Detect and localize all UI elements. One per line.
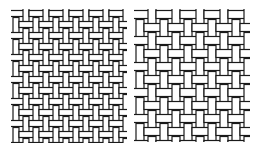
weave-strand: [113, 150, 119, 153]
weave-strand: [252, 11, 265, 19]
weave-strand: [129, 143, 145, 149]
weave-strand: [119, 88, 135, 94]
weave-strand: [256, 124, 264, 145]
weave-strand: [23, 139, 29, 153]
weave-strand: [73, 150, 79, 153]
weave-strand: [244, 137, 252, 153]
weave-strand: [119, 22, 135, 28]
weave-strand: [119, 66, 135, 72]
weave-strand: [240, 24, 260, 32]
weave-strand: [63, 139, 69, 153]
weave-strand: [172, 137, 180, 153]
weave-strand: [123, 139, 129, 153]
weave-strand: [133, 150, 139, 153]
weave-strand: [252, 141, 265, 149]
fine-basket-weave-pattern: [0, 0, 265, 152]
weave-strand: [252, 37, 265, 45]
weave-strand: [33, 150, 39, 153]
weave-strand: [9, 143, 25, 149]
weave-strand: [119, 132, 135, 138]
weave-strand: [49, 143, 65, 149]
weave-strand: [256, 46, 264, 67]
fine-basket-weave: [9, 7, 145, 153]
weave-strand: [29, 143, 45, 149]
weave-strand: [252, 115, 265, 123]
weave-strand: [256, 98, 264, 119]
weave-strand: [232, 150, 240, 153]
weave-strand: [13, 150, 19, 153]
weave-strand: [252, 63, 265, 71]
weave-strand: [160, 150, 168, 153]
weave-strand: [53, 150, 59, 153]
weave-strand: [148, 137, 156, 153]
weave-strand: [240, 50, 260, 58]
weave-strand: [240, 76, 260, 84]
weave-strand: [119, 110, 135, 116]
weave-strand: [103, 139, 109, 153]
weave-strand: [69, 143, 85, 149]
weave-strand: [184, 150, 192, 153]
weave-strand: [109, 143, 125, 149]
weave-strand: [93, 150, 99, 153]
weave-strand: [220, 137, 228, 153]
weave-strand: [256, 150, 264, 153]
coarse-basket-weave: [132, 7, 265, 153]
weave-strand: [256, 20, 264, 41]
weave-strand: [43, 139, 49, 153]
weave-strand: [252, 89, 265, 97]
weave-strand: [196, 137, 204, 153]
weave-strand: [83, 139, 89, 153]
weave-strand: [240, 128, 260, 136]
weave-strand: [256, 72, 264, 93]
weave-strand: [240, 102, 260, 110]
weave-strand: [136, 150, 144, 153]
weave-strand: [208, 150, 216, 153]
weave-strand: [119, 44, 135, 50]
weave-strand: [89, 143, 105, 149]
